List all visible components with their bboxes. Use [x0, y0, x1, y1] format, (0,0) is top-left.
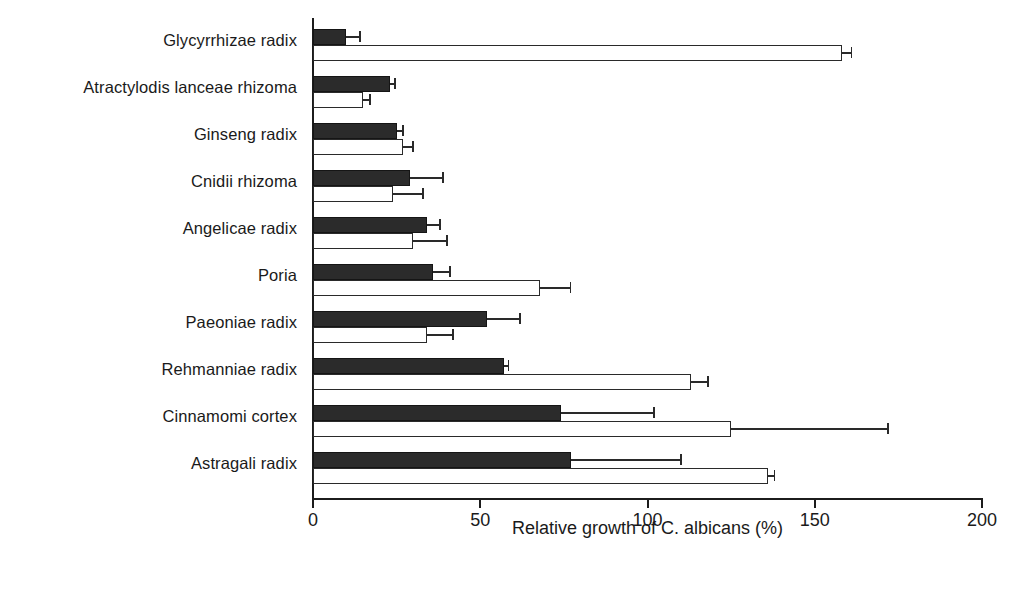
bar-filled [313, 405, 561, 421]
category-label-atractylodis-lanceae-rhizoma: Atractylodis lanceae rhizoma [83, 79, 297, 96]
error-bar [413, 233, 446, 249]
error-bar-line [410, 177, 443, 179]
error-bar-cap [394, 78, 396, 89]
error-bar [691, 374, 708, 390]
error-bar-line [433, 271, 450, 273]
bar-open [313, 139, 403, 155]
bar-open [313, 421, 731, 437]
category-label-poria: Poria [258, 267, 297, 284]
error-bar [397, 123, 404, 139]
error-bar-cap [887, 423, 889, 434]
error-bar-cap [774, 470, 776, 481]
x-axis-title: Relative growth of C. albicans (%) [313, 518, 982, 539]
bar-group [313, 29, 982, 61]
bar-open [313, 45, 842, 61]
bar-open [313, 280, 540, 296]
error-bar [731, 421, 888, 437]
error-bar-cap [412, 141, 414, 152]
error-bar [346, 29, 359, 45]
error-bar-cap [369, 94, 371, 105]
category-label-rehmanniae-radix: Rehmanniae radix [161, 361, 297, 378]
error-bar-line [540, 287, 570, 289]
bar-open [313, 233, 413, 249]
error-bar-line [571, 459, 681, 461]
error-bar-line [413, 240, 446, 242]
error-bar-cap [519, 313, 521, 324]
error-bar [403, 139, 413, 155]
bar-filled [313, 311, 487, 327]
error-bar-cap [449, 266, 451, 277]
bar-open [313, 92, 363, 108]
error-bar-cap [508, 360, 510, 371]
x-axis-tick [312, 500, 314, 508]
bar-filled [313, 264, 433, 280]
error-bar-cap [446, 235, 448, 246]
error-bar [363, 92, 370, 108]
error-bar [842, 45, 852, 61]
category-label-paeoniae-radix: Paeoniae radix [186, 314, 297, 331]
category-label-ginseng-radix: Ginseng radix [194, 126, 297, 143]
error-bar [427, 217, 440, 233]
bar-open [313, 327, 427, 343]
bar-open [313, 186, 393, 202]
error-bar [410, 170, 443, 186]
error-bar [540, 280, 570, 296]
bar-chart-figure: Glycyrrhizae radix Atractylodis lanceae … [0, 0, 1034, 606]
category-label-cnidii-rhizoma: Cnidii rhizoma [191, 173, 297, 190]
error-bar [504, 358, 509, 374]
error-bar [487, 311, 520, 327]
error-bar-line [427, 334, 454, 336]
bar-open [313, 374, 691, 390]
bar-open [313, 468, 768, 484]
error-bar-line [346, 36, 359, 38]
error-bar [433, 264, 450, 280]
bar-group [313, 264, 982, 296]
bar-group [313, 76, 982, 108]
bar-group [313, 405, 982, 437]
x-axis-tick [981, 500, 983, 508]
category-label-angelicae-radix: Angelicae radix [183, 220, 297, 237]
plot-area: 050100150200 [313, 18, 982, 498]
error-bar-cap [452, 329, 454, 340]
error-bar-line [731, 428, 888, 430]
error-bar-line [487, 318, 520, 320]
error-bar-cap [422, 188, 424, 199]
error-bar-cap [653, 407, 655, 418]
bar-filled [313, 29, 346, 45]
category-label-glycyrrhizae-radix: Glycyrrhizae radix [163, 32, 297, 49]
category-label-cinnamomi-cortex: Cinnamomi cortex [162, 408, 297, 425]
category-label-column: Glycyrrhizae radix Atractylodis lanceae … [0, 18, 305, 498]
error-bar-line [393, 193, 423, 195]
bar-filled [313, 76, 390, 92]
error-bar-cap [442, 172, 444, 183]
error-bar-cap [851, 47, 853, 58]
error-bar [427, 327, 454, 343]
bar-group [313, 170, 982, 202]
bar-group [313, 452, 982, 484]
error-bar-line [427, 224, 440, 226]
x-axis-tick [647, 500, 649, 508]
error-bar [390, 76, 395, 92]
error-bar-line [561, 412, 655, 414]
error-bar-cap [570, 282, 572, 293]
x-axis-tick [814, 500, 816, 508]
x-axis-tick [479, 500, 481, 508]
bar-filled [313, 170, 410, 186]
bar-group [313, 123, 982, 155]
bar-group [313, 217, 982, 249]
bar-filled [313, 217, 427, 233]
category-label-astragali-radix: Astragali radix [191, 455, 297, 472]
error-bar-cap [359, 31, 361, 42]
error-bar [393, 186, 423, 202]
error-bar-line [691, 381, 708, 383]
error-bar [768, 468, 775, 484]
error-bar-cap [707, 376, 709, 387]
bar-filled [313, 452, 571, 468]
error-bar-cap [402, 125, 404, 136]
error-bar [561, 405, 655, 421]
error-bar-cap [439, 219, 441, 230]
bar-group [313, 311, 982, 343]
bar-filled [313, 358, 504, 374]
error-bar [571, 452, 681, 468]
bar-group [313, 358, 982, 390]
